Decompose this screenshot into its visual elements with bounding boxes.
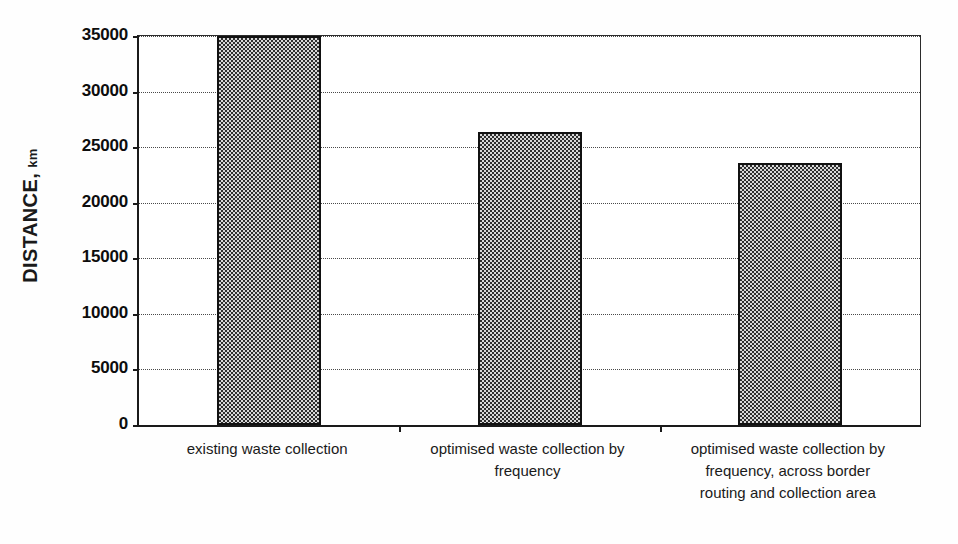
bar — [738, 163, 842, 425]
x-axis-category-label-line: optimised waste collection by — [658, 438, 918, 460]
y-axis-title-text: DISTANCE, km — [19, 148, 42, 283]
x-axis-category-label-line: optimised waste collection by — [397, 438, 657, 460]
y-axis-tick-mark — [133, 92, 139, 94]
x-axis-category-label-line: frequency — [397, 460, 657, 482]
x-axis-category-label: optimised waste collection byfrequency, … — [658, 438, 918, 504]
y-axis-tick-label: 20000 — [50, 192, 137, 212]
bar — [217, 36, 321, 425]
x-axis-category-label-line: frequency, across border — [658, 460, 918, 482]
y-axis-tick-label: 0 — [50, 414, 137, 434]
y-axis-tick-label: 5000 — [50, 358, 137, 378]
y-axis-tick-mark — [133, 258, 139, 260]
x-axis-category-labels: existing waste collectionoptimised waste… — [137, 438, 918, 538]
bar — [478, 132, 582, 425]
y-axis-tick-label: 25000 — [50, 136, 137, 156]
y-axis-tick-label: 35000 — [50, 25, 137, 45]
x-axis-category-label: optimised waste collection byfrequency — [397, 438, 657, 482]
y-axis-title-main: DISTANCE, — [19, 172, 42, 282]
y-axis-tick-mark — [133, 203, 139, 205]
y-axis-tick-label: 30000 — [50, 81, 137, 101]
y-axis-title-unit: km — [25, 148, 40, 168]
chart-figure: DISTANCE, km 050001000015000200002500030… — [0, 0, 958, 544]
x-axis-category-label-line: existing waste collection — [137, 438, 397, 460]
x-axis-tick-mark — [399, 426, 401, 432]
y-axis-tick-mark — [133, 369, 139, 371]
plot-area — [137, 35, 921, 427]
y-axis-tick-mark — [133, 425, 139, 427]
x-axis-category-label-line: routing and collection area — [658, 482, 918, 504]
y-axis-tick-mark — [133, 36, 139, 38]
y-axis-tick-label: 10000 — [50, 303, 137, 323]
y-axis-tick-mark — [133, 314, 139, 316]
y-axis-tick-labels: 05000100001500020000250003000035000 — [50, 0, 137, 544]
y-axis-tick-mark — [133, 147, 139, 149]
x-axis-tick-mark — [660, 426, 662, 432]
x-axis-category-label: existing waste collection — [137, 438, 397, 460]
y-axis-tick-label: 15000 — [50, 247, 137, 267]
